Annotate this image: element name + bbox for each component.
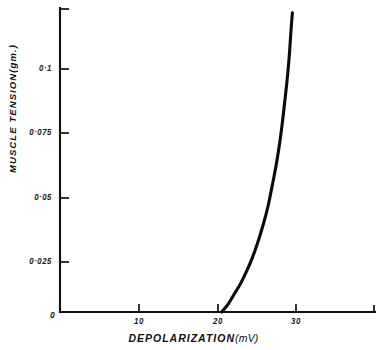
x-tick-label-30: 30 xyxy=(283,316,309,326)
y-axis-ticks xyxy=(60,69,69,262)
chart-plot-area xyxy=(0,0,387,350)
axes-group xyxy=(60,8,375,312)
y-tick-label-0025: 0·025 xyxy=(6,256,52,266)
origin-label: 0 xyxy=(50,310,55,320)
x-axis-unit-text: (mV) xyxy=(235,332,259,344)
x-tick-label-20: 20 xyxy=(205,316,231,326)
data-curve-muscle-tension xyxy=(222,13,293,312)
y-axis-title-text: MUSCLE TENSION xyxy=(7,73,18,173)
x-axis-ticks xyxy=(139,304,296,312)
y-tick-label-005: 0·05 xyxy=(6,192,52,202)
figure-container: 0·025 0·05 0·075 0·1 10 20 30 0 DEPOLARI… xyxy=(0,0,387,350)
x-axis-title: DEPOLARIZATION(mV) xyxy=(0,332,387,344)
x-tick-label-10: 10 xyxy=(126,316,152,326)
x-axis-title-text: DEPOLARIZATION xyxy=(128,332,235,344)
y-axis-unit-text: (gm.) xyxy=(7,44,18,73)
y-axis-title: MUSCLE TENSION(gm.) xyxy=(7,29,18,189)
